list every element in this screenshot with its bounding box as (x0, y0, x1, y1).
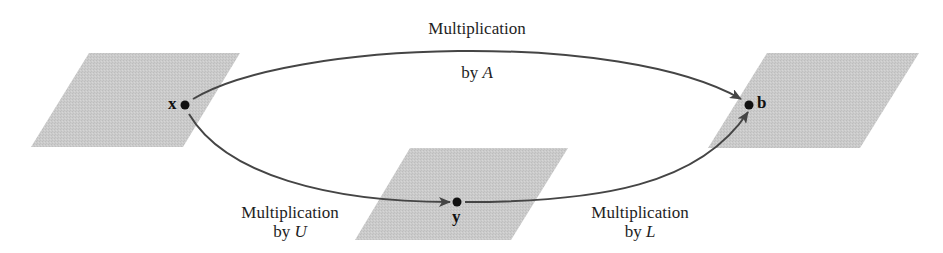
label-lower-left-line1: Multiplication (230, 203, 350, 222)
label-lower-left-prefix: by (273, 222, 294, 241)
label-top-prefix: by (461, 63, 482, 82)
label-lower-left: Multiplication by U (230, 203, 350, 241)
point-y-dot (453, 198, 462, 207)
matrix-l-symbol: L (646, 222, 655, 241)
label-lower-right-prefix: by (625, 222, 646, 241)
point-y-label: y (452, 208, 461, 225)
codomain-plane (708, 53, 919, 148)
point-b-label: b (757, 94, 766, 111)
label-top-text: Multiplication (428, 19, 525, 38)
label-lower-left-line2: by U (230, 222, 350, 241)
point-x-label: x (168, 95, 177, 112)
matrix-a-symbol: A (482, 63, 492, 82)
label-lower-right: Multiplication by L (580, 203, 700, 241)
label-lower-right-line1: Multiplication (580, 203, 700, 222)
label-top-line1: Multiplication (417, 19, 537, 38)
matrix-u-symbol: U (294, 222, 306, 241)
intermediate-plane (355, 148, 568, 240)
label-top-line2: by A (437, 63, 517, 82)
point-x-dot (181, 101, 190, 110)
domain-plane (31, 53, 240, 147)
label-lower-right-line2: by L (580, 222, 700, 241)
point-b-dot (745, 101, 754, 110)
